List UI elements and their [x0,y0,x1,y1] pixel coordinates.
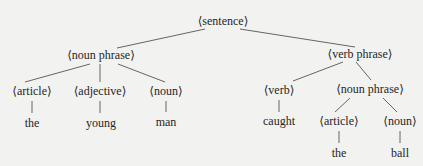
node-verb-phrase: ⟨verb phrase⟩ [327,48,392,60]
node-noun-phrase: ⟨noun phrase⟩ [67,49,135,61]
leaf-caught: caught [263,115,295,127]
edge-np1-noun [118,64,165,82]
leaf-young: young [86,117,116,129]
leaf-ball: ball [391,147,409,159]
node-verb: ⟨verb⟩ [264,84,295,96]
edge-np2-article [335,98,350,112]
edge-vp-np2 [356,62,371,80]
edge-vp-verb [293,62,343,81]
edge-sentence-vp [240,29,355,47]
leaf-the: the [25,117,40,129]
node-noun: ⟨noun⟩ [149,85,182,97]
node-noun-phrase-2: ⟨noun phrase⟩ [336,83,404,95]
edge-sentence-np1 [117,29,205,48]
edge-np2-noun [383,98,397,112]
node-adjective: ⟨adjective⟩ [74,85,127,97]
node-article-2: ⟨article⟩ [319,115,358,127]
parse-tree-diagram: ⟨sentence⟩ ⟨noun phrase⟩ ⟨verb phrase⟩ ⟨… [0,0,423,166]
leaf-the-2: the [332,147,347,159]
node-article: ⟨article⟩ [12,85,51,97]
node-noun-2: ⟨noun⟩ [383,115,416,127]
node-sentence: ⟨sentence⟩ [198,15,249,27]
edge-np1-article [25,64,90,82]
leaf-man: man [156,116,177,128]
